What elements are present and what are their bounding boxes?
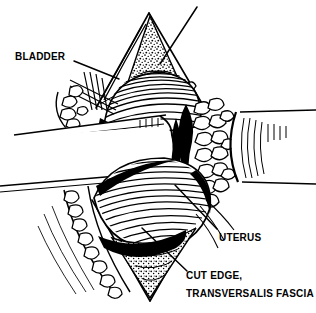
retractor-blade-right bbox=[230, 110, 316, 184]
surgical-illustration-figure: BLADDER UTERUS CUT EDGE, TRANSVERSALIS F… bbox=[0, 0, 316, 313]
label-bladder: BLADDER bbox=[15, 51, 65, 63]
label-transversalis-fascia: TRANSVERSALIS FASCIA bbox=[186, 288, 314, 300]
label-cut-edge: CUT EDGE, bbox=[186, 270, 242, 282]
label-uterus: UTERUS bbox=[219, 232, 261, 244]
illustration-artwork bbox=[0, 0, 316, 313]
